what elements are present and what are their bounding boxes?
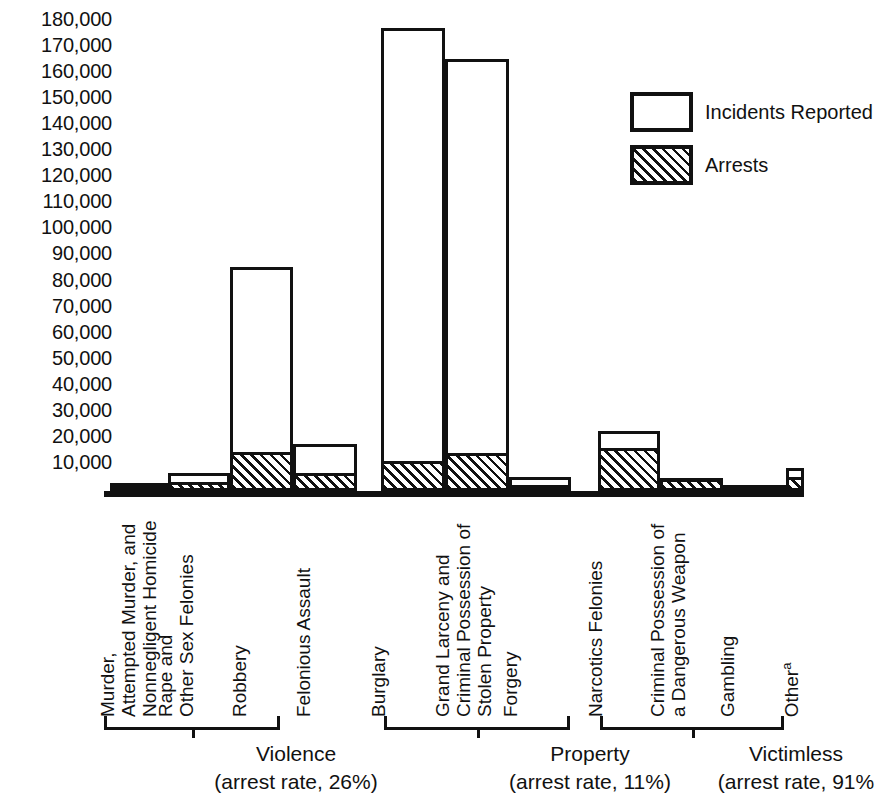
category-label-line: Criminal Possession of xyxy=(647,524,668,717)
bar-arrests xyxy=(293,473,357,491)
y-axis-tick-180000: 180,000 xyxy=(6,9,112,29)
category-label-line: Grand Larceny and xyxy=(432,554,453,717)
group-bracket-tick xyxy=(477,727,480,738)
group-name: Violence xyxy=(146,740,446,768)
bar-incidents-reported xyxy=(445,59,509,491)
category-label-line: Felonious Assault xyxy=(293,568,314,717)
bar-arrests xyxy=(381,461,445,491)
category-label-line: Murder, xyxy=(97,653,118,717)
group-arrest-rate: (arrest rate, 91% xyxy=(646,768,879,796)
bar-arrests xyxy=(445,453,509,491)
y-axis-tick-10000: 10,000 xyxy=(6,452,112,472)
category-label-line: Rape and xyxy=(155,635,176,717)
y-axis-tick-60000: 60,000 xyxy=(6,322,112,342)
category-label-line: Burglary xyxy=(368,646,389,717)
y-axis-tick-130000: 130,000 xyxy=(6,139,112,159)
y-axis-tick-80000: 80,000 xyxy=(6,270,112,290)
x-axis-baseline xyxy=(104,491,804,497)
group-caption-victimless: Victimless(arrest rate, 91% xyxy=(646,740,879,796)
category-label-line: Robbery xyxy=(229,645,250,717)
y-axis-tick-110000: 110,000 xyxy=(6,191,112,211)
bar-arrests xyxy=(509,485,571,492)
group-brackets xyxy=(104,716,804,738)
group-name: Victimless xyxy=(646,740,879,768)
bar-arrests xyxy=(230,452,293,491)
category-label-line: Gambling xyxy=(717,636,738,717)
bar-arrests xyxy=(110,485,168,491)
category-label-line: Stolen Property xyxy=(474,586,495,717)
category-label-line: Other Sex Felonies xyxy=(176,554,197,717)
bar-arrests xyxy=(723,485,786,491)
y-axis-tick-50000: 50,000 xyxy=(6,348,112,368)
bar-incidents-reported xyxy=(381,28,445,491)
footnote-marker: a xyxy=(779,662,794,669)
group-bracket-tick xyxy=(192,727,195,738)
category-label-line: Criminal Possession of xyxy=(453,524,474,717)
bar-arrests xyxy=(660,479,723,491)
category-label-line: Othera xyxy=(776,662,802,717)
y-axis-tick-140000: 140,000 xyxy=(6,113,112,133)
y-axis-tick-30000: 30,000 xyxy=(6,400,112,420)
y-axis-tick-160000: 160,000 xyxy=(6,61,112,81)
category-label-line: Forgery xyxy=(500,652,521,717)
y-axis-tick-100000: 100,000 xyxy=(6,217,112,237)
group-arrest-rate: (arrest rate, 26%) xyxy=(146,768,446,796)
bar-arrests xyxy=(598,448,660,491)
category-label-line: Attempted Murder, and xyxy=(118,524,139,717)
y-axis-tick-40000: 40,000 xyxy=(6,374,112,394)
y-axis-tick-170000: 170,000 xyxy=(6,35,112,55)
category-label-line: Narcotics Felonies xyxy=(585,561,606,717)
group-bracket-tick xyxy=(692,727,695,738)
y-axis-tick-20000: 20,000 xyxy=(6,426,112,446)
category-labels: Murder,Attempted Murder, andNonnegligent… xyxy=(104,505,804,717)
y-axis-tick-70000: 70,000 xyxy=(6,296,112,316)
y-axis-tick-150000: 150,000 xyxy=(6,87,112,107)
plot-area xyxy=(104,0,804,497)
bar-arrests xyxy=(168,482,230,491)
y-axis-tick-labels: 180,000170,000160,000150,000140,000130,0… xyxy=(0,0,112,520)
bar-arrests xyxy=(786,477,804,491)
category-label-line: a Dangerous Weapon xyxy=(668,533,689,718)
group-caption-violence: Violence(arrest rate, 26%) xyxy=(146,740,446,796)
y-axis-tick-90000: 90,000 xyxy=(6,243,112,263)
y-axis-tick-120000: 120,000 xyxy=(6,165,112,185)
group-captions: Violence(arrest rate, 26%)Property(arres… xyxy=(0,740,856,797)
